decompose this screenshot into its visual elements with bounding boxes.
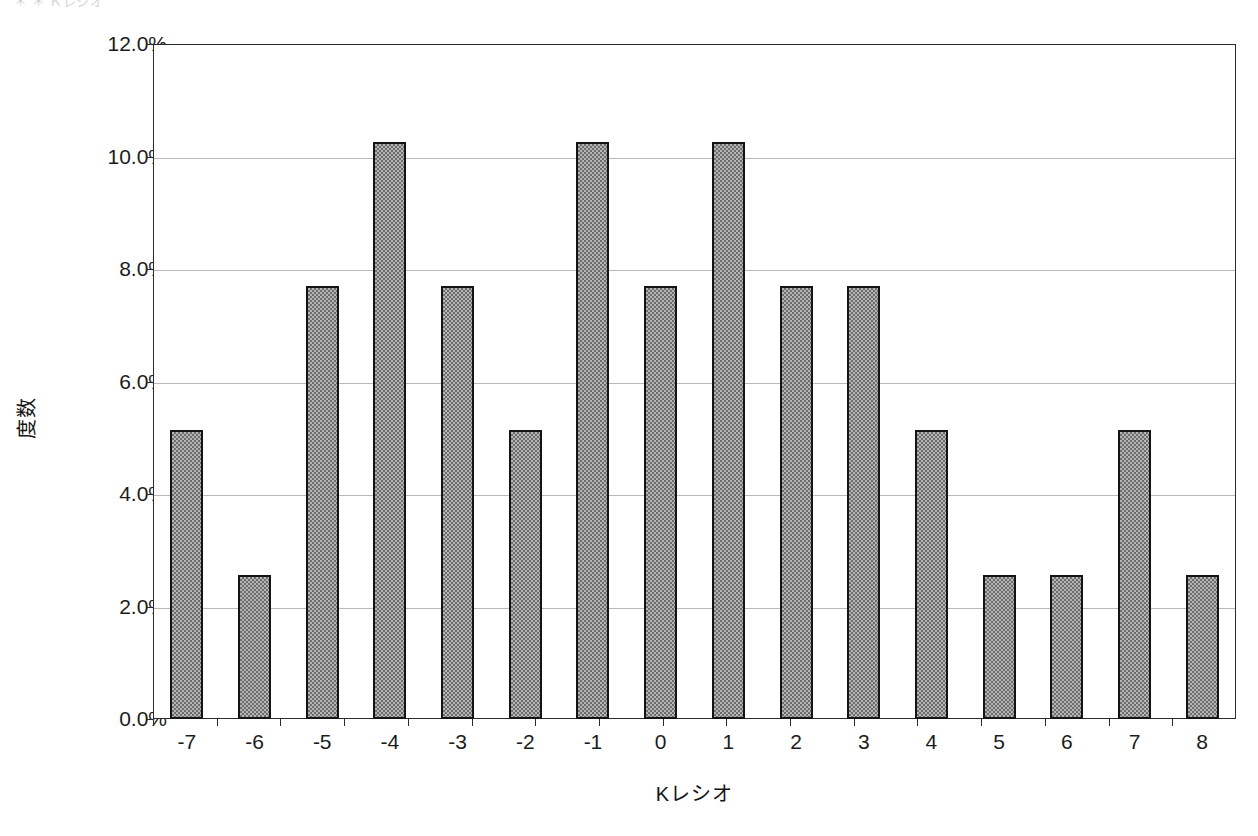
x-axis-tickmark xyxy=(280,719,344,727)
bar[interactable] xyxy=(509,430,542,719)
x-axis-title: Kレシオ xyxy=(153,778,1236,807)
x-axis-tickmark xyxy=(472,719,536,727)
x-axis-tickmark xyxy=(344,719,408,727)
y-axis-tickmark xyxy=(146,44,153,45)
x-axis-tickmark xyxy=(917,719,981,727)
bar[interactable] xyxy=(915,430,948,719)
x-axis-tickmark xyxy=(790,719,854,727)
bar[interactable] xyxy=(306,286,339,719)
x-axis-labels: -7-6-5-4-3-2-1012345678 xyxy=(153,730,1236,754)
bar-slot xyxy=(491,44,559,719)
x-axis-tick-label: 8 xyxy=(1168,730,1236,754)
x-axis-tickmark-end xyxy=(1172,719,1236,727)
y-axis-title: 度数 xyxy=(11,397,40,439)
x-axis-tick-label: 5 xyxy=(965,730,1033,754)
bar[interactable] xyxy=(780,286,813,719)
x-axis-tick-label: 3 xyxy=(830,730,898,754)
x-axis-tick-label: 1 xyxy=(695,730,763,754)
bar-series xyxy=(153,44,1236,719)
bar-slot xyxy=(424,44,492,719)
x-axis-tickmark xyxy=(153,719,217,727)
x-axis-tickmark xyxy=(1045,719,1109,727)
bar-slot xyxy=(221,44,289,719)
x-axis-tickmarks xyxy=(153,719,1236,727)
bar[interactable] xyxy=(644,286,677,719)
x-axis-tickmark xyxy=(217,719,281,727)
bar[interactable] xyxy=(441,286,474,719)
x-axis-tick-label: -2 xyxy=(491,730,559,754)
x-axis-tick-label: -7 xyxy=(153,730,221,754)
x-axis-tick-label: 7 xyxy=(1101,730,1169,754)
y-axis-tickmark xyxy=(146,157,153,158)
y-axis-tickmark xyxy=(146,607,153,608)
bar-slot xyxy=(1168,44,1236,719)
bar[interactable] xyxy=(847,286,880,719)
bar[interactable] xyxy=(1050,575,1083,719)
x-axis-tick-label: -4 xyxy=(356,730,424,754)
bar[interactable] xyxy=(238,575,271,719)
x-axis-tick-label: -5 xyxy=(288,730,356,754)
x-axis-tickmark xyxy=(981,719,1045,727)
bar[interactable] xyxy=(1186,575,1219,719)
bar-slot xyxy=(288,44,356,719)
bar[interactable] xyxy=(576,142,609,719)
x-axis-tickmark xyxy=(1109,719,1173,727)
x-axis-tick-label: 0 xyxy=(627,730,695,754)
x-axis-tick-label: -1 xyxy=(559,730,627,754)
bar-slot xyxy=(559,44,627,719)
bar-slot xyxy=(627,44,695,719)
bar-slot xyxy=(1033,44,1101,719)
x-axis-tickmark xyxy=(535,719,599,727)
bar-slot xyxy=(830,44,898,719)
y-axis-tickmark xyxy=(146,719,153,720)
x-axis-tickmark xyxy=(726,719,790,727)
x-axis-tick-label: 4 xyxy=(898,730,966,754)
bar-slot xyxy=(965,44,1033,719)
bar-slot xyxy=(153,44,221,719)
x-axis-tick-label: 2 xyxy=(762,730,830,754)
x-axis-tick-label: -3 xyxy=(424,730,492,754)
y-axis-tickmark xyxy=(146,269,153,270)
x-axis-tick-label: 6 xyxy=(1033,730,1101,754)
bar[interactable] xyxy=(373,142,406,719)
bar[interactable] xyxy=(712,142,745,719)
histogram-chart: 度数 0.0%2.0%4.0%6.0%8.0%10.0%12.0% -7-6-5… xyxy=(0,0,1258,836)
bar-slot xyxy=(1101,44,1169,719)
x-axis-tickmark xyxy=(663,719,727,727)
x-axis-tickmark xyxy=(408,719,472,727)
y-axis-tickmark xyxy=(146,494,153,495)
bar[interactable] xyxy=(983,575,1016,719)
x-axis-tickmark xyxy=(854,719,918,727)
bar-slot xyxy=(898,44,966,719)
x-axis-tick-label: -6 xyxy=(221,730,289,754)
bar-slot xyxy=(762,44,830,719)
bar-slot xyxy=(356,44,424,719)
bar[interactable] xyxy=(170,430,203,719)
y-axis-tickmark xyxy=(146,382,153,383)
bar-slot xyxy=(695,44,763,719)
x-axis-tickmark xyxy=(599,719,663,727)
bar[interactable] xyxy=(1118,430,1151,719)
